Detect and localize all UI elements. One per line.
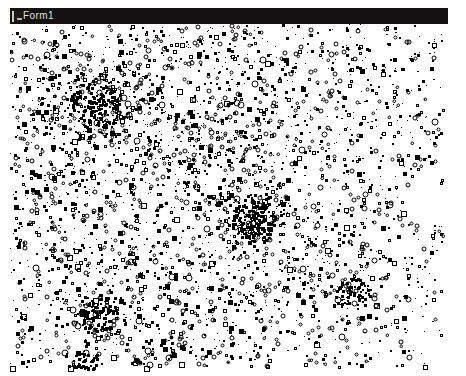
application-window: Form1 <box>10 8 448 372</box>
title-bar-filler <box>54 8 448 24</box>
window-title-bar[interactable]: Form1 <box>10 8 448 24</box>
window-title: Form1 <box>23 8 54 24</box>
system-menu-icon[interactable] <box>12 11 21 22</box>
random-scatter-canvas <box>10 24 448 372</box>
form-client-area[interactable] <box>10 24 448 372</box>
